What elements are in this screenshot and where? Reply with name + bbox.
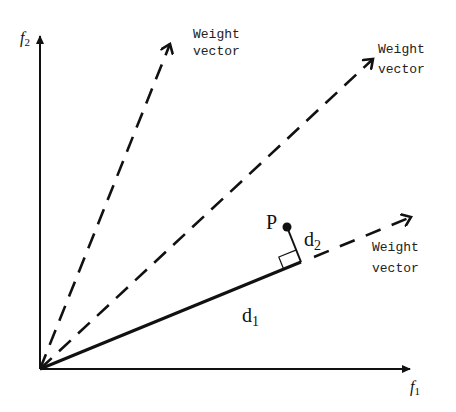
point-p-label: P (266, 211, 277, 233)
d1-label-sub: 1 (252, 314, 259, 329)
weight-vector-3-label: Weight vector (372, 240, 427, 276)
point-p-marker (283, 223, 292, 232)
weight-vector-3-label-line1: Weight (372, 240, 419, 255)
weight-vector-3-label-line2: vector (372, 261, 419, 276)
weight-vector-1-label-line1: Weight (193, 27, 240, 42)
f1-axis-label: f1 (410, 378, 420, 397)
weight-vector-1 (40, 44, 170, 369)
d1-segment (40, 262, 301, 369)
weight-vector-2-label: Weight vector (378, 42, 433, 77)
f2-label-sub: 2 (24, 36, 30, 48)
weight-vector-diagram: f2 f1 Weight vector Weight vector Weight… (0, 0, 456, 412)
d2-label-base: d (304, 228, 314, 250)
d2-segment (287, 227, 301, 262)
d2-label-sub: 2 (314, 238, 321, 253)
d2-label: d2 (304, 228, 321, 253)
f1-label-sub: 1 (414, 385, 420, 397)
weight-vector-2-label-line1: Weight (378, 42, 425, 57)
weight-vector-1-label: Weight vector (193, 27, 248, 59)
weight-vector-2-label-line2: vector (378, 62, 425, 77)
d1-label-base: d (242, 304, 252, 326)
d1-label: d1 (242, 304, 259, 329)
f2-axis-label: f2 (20, 29, 30, 48)
weight-vector-1-label-line2: vector (193, 44, 240, 59)
weight-vector-2 (40, 59, 373, 369)
